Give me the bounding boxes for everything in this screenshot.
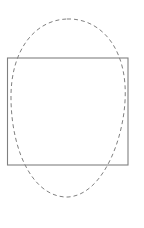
- dashed-oval-outline: [11, 19, 125, 197]
- diagram-canvas: [0, 0, 144, 228]
- rectangle-outline: [8, 58, 129, 165]
